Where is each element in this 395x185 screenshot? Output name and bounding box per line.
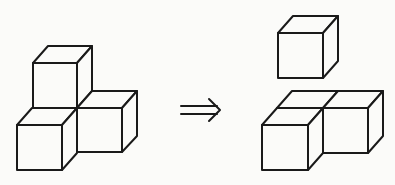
left-front-cube (17, 108, 77, 170)
diagram-canvas (0, 0, 395, 185)
left-right-cube (77, 91, 137, 152)
cube-front-face (262, 125, 308, 170)
right-single-cube (278, 16, 338, 78)
cube-front-face (278, 33, 323, 78)
cube-front-face (323, 108, 368, 153)
implies-arrow-icon (181, 99, 220, 121)
right-figure (262, 16, 383, 170)
left-top-cube (33, 46, 92, 108)
cube-front-face (17, 125, 62, 170)
left-figure (17, 46, 137, 170)
cube-front-face (77, 108, 122, 152)
cube-front-face (33, 63, 77, 108)
right-base-group (262, 91, 383, 170)
